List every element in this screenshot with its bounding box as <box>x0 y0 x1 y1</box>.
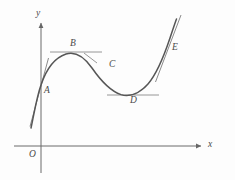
main-curve <box>31 19 177 128</box>
point-label-b: B <box>70 39 76 49</box>
point-label-a: A <box>44 86 50 96</box>
point-label-d: D <box>130 96 137 106</box>
origin-label: O <box>29 150 36 160</box>
x-axis-label: x <box>208 140 212 150</box>
point-label-c: C <box>109 60 115 70</box>
figure-canvas: A B C D E y x O <box>0 0 235 180</box>
y-axis-label: y <box>36 9 40 19</box>
point-label-e: E <box>172 43 178 53</box>
